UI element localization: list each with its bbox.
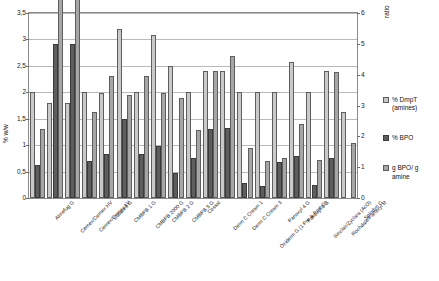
bar-group <box>167 13 184 198</box>
chart-root: 00,511,522,533,5 0123456 % w/w ratio Akn… <box>0 0 439 281</box>
secondary-y-tick-mark <box>357 167 360 168</box>
bar-group <box>133 13 150 198</box>
bar-group <box>184 13 201 198</box>
bar-dmpt <box>237 92 242 198</box>
bar-ratio <box>179 98 184 198</box>
bar-ratio <box>196 130 201 198</box>
bar-group <box>271 13 288 198</box>
bar-ratio <box>127 95 132 198</box>
bar-ratio <box>299 124 304 198</box>
secondary-y-tick-label: 5 <box>361 41 365 48</box>
bar-group <box>219 13 236 198</box>
y-tick-label: 0,5 <box>17 168 26 175</box>
secondary-y-tick-label: 3 <box>361 102 365 109</box>
bar-group <box>202 13 219 198</box>
secondary-y-tick-mark <box>357 106 360 107</box>
legend-item[interactable]: % DmpT (amines) <box>383 96 439 112</box>
legend-label: % BPO <box>392 134 413 142</box>
bar-group <box>115 13 132 198</box>
secondary-y-tick-mark <box>357 44 360 45</box>
secondary-y-tick-label: 4 <box>361 71 365 78</box>
x-tick-label: Aknefug G <box>55 200 76 221</box>
x-tick-label: Cutacelf G <box>113 200 134 221</box>
bar-group <box>150 13 167 198</box>
secondary-y-tick-label: 6 <box>361 10 365 17</box>
bar-ratio <box>248 148 253 198</box>
secondary-y-tick-mark <box>357 75 360 76</box>
bar-group <box>236 13 253 198</box>
bar-ratio <box>213 71 218 198</box>
y-tick-label: 1,5 <box>17 115 26 122</box>
bar-ratio <box>144 76 149 198</box>
bar-group <box>322 13 339 198</box>
secondary-y-tick-label: 0 <box>361 195 365 202</box>
plot-area: 00,511,522,533,5 0123456 <box>28 12 358 199</box>
legend-label: % DmpT (amines) <box>392 96 417 112</box>
bar-ratio <box>351 143 356 199</box>
legend-swatch-icon <box>383 135 389 141</box>
legend-label: g BPO/ g amine <box>392 164 418 180</box>
bar-group <box>64 13 81 198</box>
bar-ratio <box>334 72 339 198</box>
secondary-y-tick-label: 2 <box>361 133 365 140</box>
bar-dmpt <box>255 92 260 198</box>
bar-group <box>46 13 63 198</box>
bar-ratio <box>265 161 270 198</box>
y-tick-label: 3,5 <box>17 10 26 17</box>
bar-group <box>98 13 115 198</box>
bar-group <box>288 13 305 198</box>
bar-group <box>340 13 357 198</box>
bar-ratio <box>161 93 166 198</box>
bar-ratio <box>58 0 63 198</box>
secondary-y-tick-mark <box>357 136 360 137</box>
bar-group <box>29 13 46 198</box>
secondary-y-axis-label: ratio <box>384 5 391 18</box>
bar-ratio <box>282 158 287 198</box>
y-tick-label: 2,5 <box>17 63 26 70</box>
bar-ratio <box>230 56 235 198</box>
x-axis-labels: Aknefug GCemex/Cemex HVCemex/Cemex LVCut… <box>28 200 358 281</box>
bar-group <box>81 13 98 198</box>
bar-dmpt <box>306 92 311 198</box>
bar-ratio <box>109 76 114 198</box>
y-axis-label: % w/w <box>3 124 10 143</box>
legend-swatch-icon <box>383 97 389 103</box>
bar-ratio <box>92 112 97 198</box>
legend-swatch-icon <box>383 165 389 171</box>
bar-ratio <box>40 129 45 198</box>
secondary-y-tick-mark <box>357 13 360 14</box>
secondary-y-tick-label: 1 <box>361 164 365 171</box>
bar-series-container <box>29 13 357 198</box>
bar-group <box>305 13 322 198</box>
secondary-y-tick-mark <box>357 198 360 199</box>
bar-ratio <box>75 0 80 198</box>
bar-ratio <box>317 160 322 198</box>
legend-item[interactable]: g BPO/ g amine <box>383 164 439 180</box>
chart-legend: % DmpT (amines)% BPOg BPO/ g amine <box>383 96 439 203</box>
bar-dmpt <box>341 112 346 198</box>
bar-group <box>253 13 270 198</box>
x-tick-label: CMBPB 1 G <box>133 200 157 224</box>
y-tick-mark <box>26 198 29 199</box>
legend-item[interactable]: % BPO <box>383 134 439 142</box>
